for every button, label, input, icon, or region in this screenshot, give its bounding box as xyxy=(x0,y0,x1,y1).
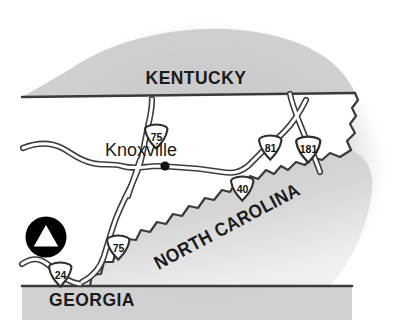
shield-label-i-24: 24 xyxy=(55,269,67,281)
shield-label-i-40: 40 xyxy=(237,183,249,195)
city-label-knoxville: Knoxville xyxy=(105,140,177,160)
map-container: 75 81 181 40 75 24 KENTUCKY Kn xyxy=(0,0,394,320)
shield-label-i-75-south: 75 xyxy=(113,242,125,254)
state-label-georgia: GEORGIA xyxy=(49,288,135,310)
shield-label-i-81: 81 xyxy=(265,142,277,154)
state-label-kentucky: KENTUCKY xyxy=(146,66,247,88)
shield-label-i-181: 181 xyxy=(300,143,318,155)
destination-marker[interactable] xyxy=(26,217,67,258)
regional-map: 75 81 181 40 75 24 KENTUCKY Kn xyxy=(0,0,394,320)
city-marker-knoxville xyxy=(160,161,169,170)
